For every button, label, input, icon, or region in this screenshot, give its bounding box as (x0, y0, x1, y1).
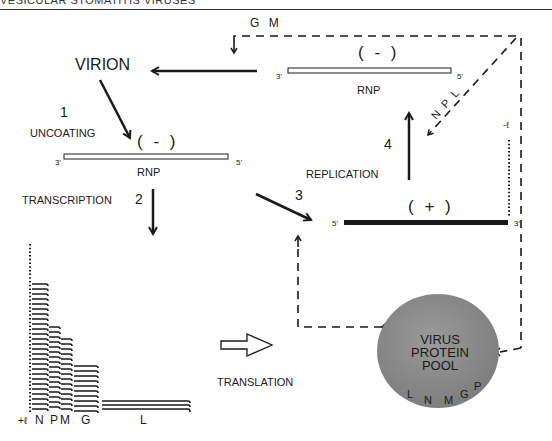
gene-label-g: G (81, 413, 90, 427)
left-strand-sense: ( - ) (137, 132, 178, 151)
gene-label-l: L (140, 413, 147, 427)
step4-label: REPLICATION (306, 168, 379, 180)
minus-leader-label: -ℓ (503, 120, 510, 130)
step1-number: 1 (60, 104, 68, 120)
positive-strand-3prime: 3' (514, 219, 520, 228)
left-strand-rnp: RNP (137, 166, 160, 178)
virus-protein-pool: VIRUS PROTEIN POOL L N M G P (377, 294, 499, 408)
transcript-ladder (30, 244, 190, 413)
step1-label: UNCOATING (30, 127, 95, 139)
top-strand-3prime: 3' (276, 72, 282, 81)
virion-label: VIRION (75, 56, 130, 73)
step2-label: TRANSCRIPTION (22, 194, 112, 206)
positive-strand: ( + ) 5' 3' (332, 197, 520, 228)
top-strand-rnp: RNP (357, 84, 380, 96)
gene-label-m: M (60, 413, 70, 427)
gene-label-n: N (35, 413, 44, 427)
pool-protein-m: M (444, 394, 453, 406)
gm-label: G M (250, 16, 282, 30)
top-strand-sense: ( - ) (358, 43, 399, 62)
step3-number: 3 (295, 187, 303, 203)
left-strand-5prime: 5' (236, 158, 242, 167)
pool-line3: POOL (422, 358, 458, 373)
pool-to-positive-path (298, 236, 386, 331)
pool-protein-n: N (424, 394, 432, 406)
pool-to-right-path (500, 348, 521, 352)
step2-number: 2 (135, 191, 143, 207)
translation-label: TRANSLATION (217, 376, 293, 388)
pool-protein-p: P (474, 380, 481, 392)
positive-strand-sense: ( + ) (408, 197, 454, 216)
vsv-replication-diagram: G M N P L VIRION ( - ) 3' 5' RNP 1 UNCOA… (0, 0, 552, 441)
pool-protein-l: L (407, 388, 413, 400)
top-strand-5prime: 5' (457, 72, 463, 81)
gene-label-p: P (50, 413, 58, 427)
left-strand-3prime: 3' (55, 158, 61, 167)
step4-number: 4 (384, 136, 392, 152)
plus-leader-label: +ℓ (18, 415, 28, 426)
pool-protein-g: G (460, 388, 469, 400)
positive-strand-5prime: 5' (332, 219, 338, 228)
translation-arrow-icon (221, 334, 272, 356)
uncoating-arrow (100, 80, 130, 138)
top-negative-strand: ( - ) 3' 5' RNP (276, 43, 463, 96)
